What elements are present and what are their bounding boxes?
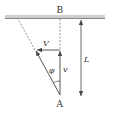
label-horizontal-velocity: V	[43, 39, 50, 48]
velocity-diagram: B A V v φ L	[0, 0, 115, 115]
label-b: B	[57, 5, 64, 15]
label-length: L	[83, 55, 89, 64]
angle-arc	[54, 81, 61, 83]
ceiling-bar	[5, 15, 105, 19]
resultant-velocity-line	[36, 51, 60, 95]
label-a: A	[56, 99, 64, 109]
label-angle: φ	[49, 66, 55, 75]
label-vertical-velocity: v	[63, 65, 68, 74]
dashed-extension-line	[18, 19, 35, 50]
